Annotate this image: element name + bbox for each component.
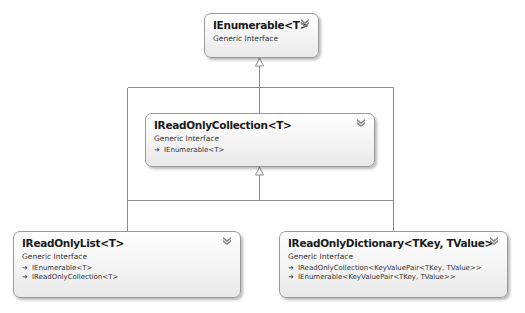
inheritance-arrowhead-middle — [256, 167, 264, 175]
arrow-right-icon: ➜ — [22, 264, 31, 273]
base-type-item: ➜ IReadOnlyCollection<KeyValuePair<TKey,… — [288, 264, 499, 273]
type-box-ienumerable[interactable]: IEnumerable<T> Generic Interface — [204, 13, 319, 58]
base-type-list: ➜ IEnumerable<T> ➜ IReadOnlyCollection<T… — [22, 264, 232, 282]
double-chevron-down-icon — [356, 118, 366, 127]
type-kind: Generic Interface — [288, 251, 499, 262]
type-box-ireadonlydictionary[interactable]: IReadOnlyDictionary<TKey, TValue> Generi… — [279, 231, 508, 298]
type-title: IReadOnlyCollection<T> — [154, 119, 366, 132]
type-kind: Generic Interface — [213, 33, 310, 44]
base-type-name: IReadOnlyCollection<T> — [32, 273, 118, 282]
arrow-right-icon: ➜ — [288, 273, 297, 282]
base-type-item: ➜ IReadOnlyCollection<T> — [22, 273, 232, 282]
collapse-button[interactable] — [300, 18, 310, 27]
double-chevron-down-icon — [489, 236, 499, 245]
diagram-canvas: IEnumerable<T> Generic Interface IReadOn… — [0, 0, 525, 313]
base-type-item: ➜ IEnumerable<T> — [22, 264, 232, 273]
base-type-name: IEnumerable<T> — [164, 146, 224, 155]
base-type-name: IEnumerable<KeyValuePair<TKey, TValue>> — [298, 273, 456, 282]
base-type-item: ➜ IEnumerable<KeyValuePair<TKey, TValue>… — [288, 273, 499, 282]
base-type-name: IEnumerable<T> — [32, 264, 92, 273]
double-chevron-down-icon — [300, 18, 310, 27]
base-type-item: ➜ IEnumerable<T> — [154, 146, 366, 155]
inheritance-arrowhead-top — [256, 58, 264, 66]
base-type-list: ➜ IEnumerable<T> — [154, 146, 366, 155]
collapse-button[interactable] — [222, 236, 232, 245]
base-type-name: IReadOnlyCollection<KeyValuePair<TKey, T… — [298, 264, 482, 273]
collapse-button[interactable] — [489, 236, 499, 245]
arrow-right-icon: ➜ — [154, 146, 163, 155]
type-title: IReadOnlyDictionary<TKey, TValue> — [288, 237, 499, 250]
base-type-list: ➜ IReadOnlyCollection<KeyValuePair<TKey,… — [288, 264, 499, 282]
type-title: IReadOnlyList<T> — [22, 237, 232, 250]
type-kind: Generic Interface — [22, 251, 232, 262]
arrow-right-icon: ➜ — [288, 264, 297, 273]
type-title: IEnumerable<T> — [213, 19, 310, 32]
type-box-ireadonlycollection[interactable]: IReadOnlyCollection<T> Generic Interface… — [145, 113, 375, 167]
collapse-button[interactable] — [356, 118, 366, 127]
arrow-right-icon: ➜ — [22, 273, 31, 282]
type-kind: Generic Interface — [154, 133, 366, 144]
type-box-ireadonlylist[interactable]: IReadOnlyList<T> Generic Interface ➜ IEn… — [13, 231, 241, 298]
double-chevron-down-icon — [222, 236, 232, 245]
